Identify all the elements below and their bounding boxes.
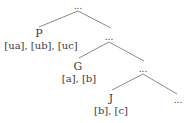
node-G: G: [74, 61, 83, 72]
edge-root-P: [39, 11, 78, 27]
node-G-features: [a], [b]: [62, 74, 96, 84]
edge-n1-G: [79, 42, 109, 58]
edge-n1-n2: [109, 42, 144, 61]
edge-root-n1: [78, 11, 111, 28]
node-P-features: [ua], [ub], [uc]: [4, 41, 77, 51]
edge-n2-n3: [143, 74, 177, 94]
node-J: J: [109, 93, 113, 104]
node-n2: ...: [139, 65, 148, 74]
node-J-features: [b], [c]: [94, 106, 128, 116]
node-P: P: [35, 28, 42, 39]
node-n1: ...: [105, 33, 114, 42]
edge-n2-J: [112, 74, 143, 90]
node-n3: ...: [174, 96, 183, 105]
root-node: ...: [74, 2, 83, 11]
